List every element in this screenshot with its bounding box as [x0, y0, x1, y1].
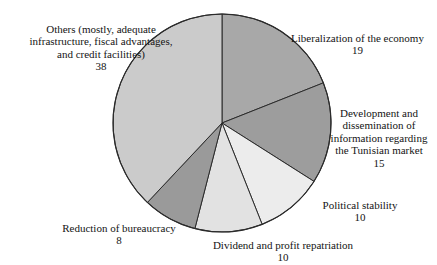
slice-label-others: Others (mostly, adequate infrastructure,…: [6, 10, 196, 86]
slice-label-reduction-bureaucracy: Reduction of bureaucracy 8: [44, 209, 194, 259]
slice-label-liberalization: Liberalization of the economy 19: [280, 19, 435, 69]
slice-label-dividend-text: Dividend and profit repatriation: [213, 239, 353, 251]
slice-value-dividend: 10: [198, 251, 368, 264]
slice-value-reduction-bureaucracy: 8: [44, 234, 194, 247]
slice-label-development: Development and dissemination of informa…: [322, 94, 436, 182]
slice-label-dividend: Dividend and profit repatriation 10: [198, 226, 368, 265]
slice-label-liberalization-text: Liberalization of the economy: [291, 32, 424, 44]
slice-label-political-stability-text: Political stability: [323, 199, 398, 211]
slice-label-reduction-bureaucracy-text: Reduction of bureaucracy: [62, 222, 176, 234]
slice-label-development-text: Development and dissemination of informa…: [331, 107, 428, 157]
slice-value-others: 38: [6, 60, 196, 73]
slice-value-political-stability: 10: [300, 211, 420, 224]
slice-value-liberalization: 19: [280, 44, 435, 57]
slice-label-others-text: Others (mostly, adequate infrastructure,…: [30, 23, 173, 60]
slice-value-development: 15: [322, 157, 436, 170]
